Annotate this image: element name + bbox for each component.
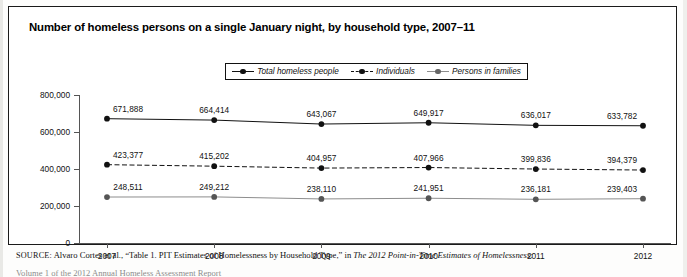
page-left-edge <box>0 0 3 277</box>
data-point-label: 248,511 <box>113 182 142 192</box>
chart-legend: Total homeless people Individuals Person… <box>225 63 528 80</box>
x-tick <box>321 243 322 248</box>
legend-marker-solid-icon <box>232 67 254 76</box>
data-point-label: 415,202 <box>199 151 229 161</box>
data-point-label: 394,379 <box>607 155 637 165</box>
x-axis <box>79 243 671 244</box>
legend-label: Total homeless people <box>257 67 339 76</box>
data-point-marker <box>640 196 646 202</box>
source-title-italic: The 2012 Point-in-Time Estimates of Home… <box>353 250 533 260</box>
data-point-marker <box>319 165 325 171</box>
data-point-marker <box>211 163 217 169</box>
data-point-marker <box>211 117 217 123</box>
data-point-marker <box>640 123 646 129</box>
series-line <box>107 119 643 126</box>
data-point-marker <box>533 122 539 128</box>
data-point-label: 241,951 <box>414 183 444 193</box>
x-tick <box>214 243 215 248</box>
source-note: SOURCE: Alvaro Cortes et al., “Table 1. … <box>16 250 676 261</box>
legend-item-total-homeless-people[interactable]: Total homeless people <box>232 67 339 76</box>
legend-marker-gray-icon <box>427 67 449 76</box>
data-point-label: 249,212 <box>199 182 229 192</box>
x-tick <box>107 243 108 248</box>
data-point-marker <box>211 194 217 200</box>
data-point-label: 633,782 <box>607 111 637 121</box>
data-point-label: 404,957 <box>306 153 336 163</box>
figure-root: Number of homeless persons on a single J… <box>0 0 687 277</box>
x-tick <box>643 243 644 248</box>
data-point-marker <box>640 167 646 173</box>
data-point-marker <box>104 162 110 168</box>
data-point-marker <box>104 116 110 122</box>
data-point-label: 399,836 <box>521 154 551 164</box>
data-point-label: 649,917 <box>414 108 444 118</box>
chart-frame: Number of homeless persons on a single J… <box>8 6 677 245</box>
series-lines <box>79 95 671 243</box>
data-point-marker <box>426 120 432 126</box>
source-label: SOURCE: <box>16 251 52 260</box>
page-right-edge <box>683 0 687 277</box>
data-point-marker <box>533 196 539 202</box>
data-point-label: 236,181 <box>521 184 551 194</box>
data-point-label: 239,403 <box>607 184 637 194</box>
legend-label: Individuals <box>376 67 415 76</box>
data-point-label: 407,966 <box>414 153 444 163</box>
data-point-label: 238,110 <box>307 184 336 194</box>
legend-marker-dashed-icon <box>351 67 373 76</box>
y-tick-label: 800,000 <box>40 90 70 100</box>
y-tick-label: 0 <box>65 238 70 248</box>
data-point-marker <box>426 165 432 171</box>
legend-label: Persons in families <box>452 67 521 76</box>
data-point-label: 643,067 <box>306 109 336 119</box>
page-title: Number of homeless persons on a single J… <box>29 21 475 33</box>
data-point-marker <box>533 166 539 172</box>
x-tick <box>536 243 537 248</box>
source-note-line2: Volume 1 of the 2012 Annual Homeless Ass… <box>16 268 676 277</box>
data-point-marker <box>319 121 325 127</box>
y-tick-label: 600,000 <box>40 127 70 137</box>
data-point-label: 423,377 <box>113 150 143 160</box>
series-line <box>107 197 643 199</box>
x-tick <box>429 243 430 248</box>
y-tick-label: 400,000 <box>40 164 70 174</box>
legend-item-individuals[interactable]: Individuals <box>351 67 415 76</box>
series-line <box>107 165 643 170</box>
data-point-label: 671,888 <box>113 104 143 114</box>
y-tick <box>74 243 79 244</box>
data-point-label: 664,414 <box>199 105 229 115</box>
data-point-marker <box>426 195 432 201</box>
legend-item-persons-in-families[interactable]: Persons in families <box>427 67 521 76</box>
data-point-marker <box>104 194 110 200</box>
plot-area: 0200,000400,000600,000800,000 2007200820… <box>79 95 671 243</box>
source-text: Alvaro Cortes et al., “Table 1. PIT Esti… <box>52 250 353 260</box>
y-tick-label: 200,000 <box>40 201 70 211</box>
data-point-marker <box>319 196 325 202</box>
data-point-label: 636,017 <box>521 110 551 120</box>
